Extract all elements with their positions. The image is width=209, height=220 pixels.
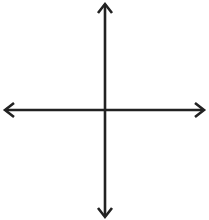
coordinate-grid <box>0 0 209 220</box>
